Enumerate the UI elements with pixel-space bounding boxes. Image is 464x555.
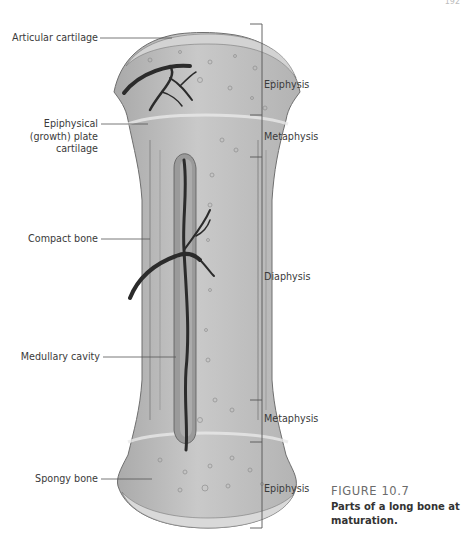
- figure-title: Parts of a long bone at maturation.: [331, 500, 461, 528]
- label-epiphyseal-line2: (growth) plate: [30, 131, 98, 144]
- bone-illustration: [0, 0, 464, 555]
- figure-number: FIGURE 10.7: [331, 484, 461, 498]
- region-metaphysis-top: Metaphysis: [264, 131, 318, 142]
- label-articular-cartilage: Articular cartilage: [12, 32, 98, 45]
- region-metaphysis-bottom: Metaphysis: [264, 413, 318, 424]
- figure-caption: FIGURE 10.7 Parts of a long bone at matu…: [331, 484, 461, 528]
- label-medullary-cavity: Medullary cavity: [21, 351, 100, 364]
- region-diaphysis: Diaphysis: [264, 271, 310, 282]
- label-spongy-bone: Spongy bone: [35, 473, 98, 486]
- label-epiphyseal-plate: Epiphysical (growth) plate cartilage: [30, 118, 98, 156]
- long-bone-figure: Articular cartilage Epiphysical (growth)…: [0, 0, 464, 555]
- region-epiphysis-bottom: Epiphysis: [264, 483, 309, 494]
- label-compact-bone: Compact bone: [28, 233, 98, 246]
- region-epiphysis-top: Epiphysis: [264, 79, 309, 90]
- label-epiphyseal-line3: cartilage: [30, 143, 98, 156]
- label-epiphyseal-line1: Epiphysical: [30, 118, 98, 131]
